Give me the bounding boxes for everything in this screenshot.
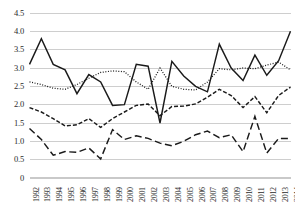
x-tick-label: 1999 — [116, 187, 124, 202]
x-tick-label: 2003 — [163, 187, 171, 202]
x-axis-tick-labels: 1992199319941995199619971998199920002001… — [0, 0, 295, 205]
x-tick-label: 2011 — [258, 187, 266, 202]
line-chart: 00.51.01.52.02.53.03.54.04.5 19921993199… — [0, 0, 295, 205]
x-tick-label: 2001 — [139, 187, 147, 202]
x-tick-label: 1994 — [56, 187, 64, 202]
x-tick-label: 2006 — [199, 187, 207, 202]
x-tick-label: 2004 — [175, 187, 183, 202]
x-tick-label: 2000 — [127, 187, 135, 202]
x-tick-label: 1993 — [44, 187, 52, 202]
x-tick-label: 1995 — [68, 187, 76, 202]
x-tick-label: 2002 — [151, 187, 159, 202]
x-tick-label: 1997 — [92, 187, 100, 202]
x-tick-label: 2013 — [282, 187, 290, 202]
x-tick-label: 2010 — [246, 187, 254, 202]
x-tick-label: 1996 — [80, 187, 88, 202]
x-tick-label: 2008 — [222, 187, 230, 202]
x-tick-label: 2007 — [210, 187, 218, 202]
x-tick-label: 2014 — [294, 187, 296, 202]
x-tick-label: 2012 — [270, 187, 278, 202]
x-tick-label: 2009 — [234, 187, 242, 202]
x-tick-label: 1992 — [33, 187, 41, 202]
x-tick-label: 1998 — [104, 187, 112, 202]
x-tick-label: 2005 — [187, 187, 195, 202]
